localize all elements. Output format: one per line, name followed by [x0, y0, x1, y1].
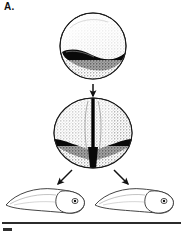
arrow-to-right-tadpole	[114, 170, 128, 184]
figure-artwork	[0, 0, 183, 235]
next-panel-label-clipped	[3, 228, 12, 231]
tadpole-right-pupil	[163, 200, 165, 202]
tadpole-right-head	[145, 191, 174, 213]
figure-panel-a: A. Normal development: grey crescent div…	[0, 0, 183, 235]
tadpole-left-head	[56, 191, 85, 213]
panel-divider-rule	[2, 222, 181, 224]
stage-fertilized-egg	[60, 13, 126, 82]
tadpole-left-pupil	[74, 200, 76, 202]
stage-tadpole-left	[6, 189, 84, 214]
stage-two-cell-embryo	[54, 98, 134, 170]
stage-tadpole-right	[95, 189, 173, 214]
arrow-to-left-tadpole	[58, 170, 72, 184]
